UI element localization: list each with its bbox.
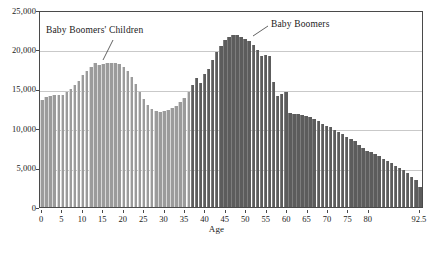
y-axis-tick	[36, 169, 39, 170]
population-age-chart: 05,00010,00015,00020,00025,000 051015202…	[0, 0, 433, 255]
y-axis-tick	[36, 129, 39, 130]
y-axis-tick	[36, 50, 39, 51]
annotation-leader-line-boomers	[0, 0, 433, 255]
y-axis-tick	[36, 11, 39, 12]
y-axis-tick	[36, 90, 39, 91]
y-axis-tick	[36, 208, 39, 209]
